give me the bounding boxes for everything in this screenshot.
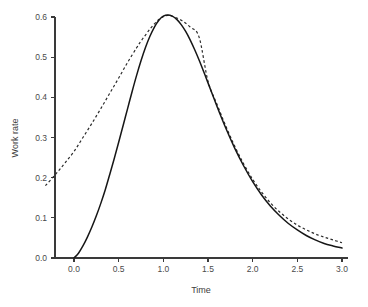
y-tick-label: 0.2 bbox=[35, 173, 47, 183]
y-tick-label: 0.6 bbox=[35, 12, 47, 22]
x-tick-label: 0.0 bbox=[68, 264, 80, 274]
y-tick-label: 0.4 bbox=[35, 92, 47, 102]
x-tick-label: 1.5 bbox=[202, 264, 214, 274]
x-tick-label: 3.0 bbox=[336, 264, 348, 274]
solid-curve-series bbox=[74, 15, 342, 258]
x-axis-title: Time bbox=[191, 285, 211, 295]
dashed-curve-series bbox=[45, 15, 342, 242]
x-tick-label: 0.5 bbox=[113, 264, 125, 274]
work-rate-line-chart: 0.00.10.20.30.40.50.6 0.00.51.01.52.02.5… bbox=[0, 0, 368, 307]
x-tick-label: 1.0 bbox=[157, 264, 169, 274]
y-tick-label: 0.3 bbox=[35, 133, 47, 143]
x-tick-label: 2.5 bbox=[291, 264, 303, 274]
y-tick-label: 0.1 bbox=[35, 213, 47, 223]
x-tick-label: 2.0 bbox=[247, 264, 259, 274]
y-axis-title: Work rate bbox=[10, 119, 20, 158]
chart-figure: 0.00.10.20.30.40.50.6 0.00.51.01.52.02.5… bbox=[0, 0, 368, 307]
axes-group bbox=[55, 17, 348, 258]
y-tick-label: 0.0 bbox=[35, 253, 47, 263]
y-axis-ticks: 0.00.10.20.30.40.50.6 bbox=[35, 12, 55, 263]
y-tick-label: 0.5 bbox=[35, 52, 47, 62]
x-axis-ticks: 0.00.51.01.52.02.53.0 bbox=[68, 258, 348, 274]
